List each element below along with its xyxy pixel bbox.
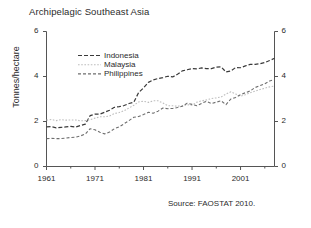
x-tick-1981: 1981 (127, 174, 161, 183)
legend-label-malaysia: Malaysia (104, 60, 136, 69)
x-tick-1991: 1991 (175, 174, 209, 183)
chart-figure: Archipelagic Southeast Asia Tonnes/hecta… (0, 0, 311, 228)
y-tick-right-0: 0 (282, 161, 296, 170)
y-tick-right-4: 4 (282, 71, 296, 80)
series-line-malaysia (47, 86, 275, 121)
source-note: Source: FAOSTAT 2010. (168, 199, 255, 208)
y-tick-left-6: 6 (25, 26, 39, 35)
legend-label-philippines: Philippines (104, 69, 143, 78)
y-tick-left-0: 0 (25, 161, 39, 170)
x-tick-1971: 1971 (78, 174, 112, 183)
series-line-philippines (47, 80, 275, 139)
y-tick-left-2: 2 (25, 116, 39, 125)
series-line-indonesia (47, 58, 275, 128)
y-tick-right-2: 2 (282, 116, 296, 125)
x-tick-1961: 1961 (30, 174, 64, 183)
legend-label-indonesia: Indonesia (104, 51, 139, 60)
y-tick-right-6: 6 (282, 26, 296, 35)
x-tick-2001: 2001 (224, 174, 258, 183)
plot-canvas (0, 0, 311, 228)
y-tick-left-4: 4 (25, 71, 39, 80)
